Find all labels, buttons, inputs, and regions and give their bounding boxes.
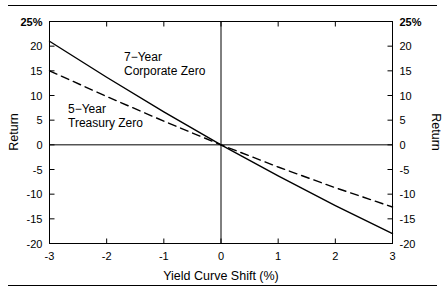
return-vs-yield-curve-shift-chart: -3-2-10123 -20-15-10-50510152025% -20-15… — [0, 0, 445, 293]
y-tick-label-left: 15 — [30, 65, 42, 77]
x-axis-tick-labels: -3-2-10123 — [45, 250, 396, 262]
treasury-zero-annotation-line1: 5−Year — [68, 102, 106, 116]
y-tick-label-left: -20 — [27, 238, 43, 250]
y-tick-label-left: -5 — [33, 164, 43, 176]
x-tick-label: -3 — [45, 250, 55, 262]
y-tick-label-left: -10 — [27, 188, 43, 200]
x-axis-ticks-top — [50, 22, 393, 27]
x-tick-label: 3 — [389, 250, 395, 262]
y-tick-label-right: -5 — [400, 164, 410, 176]
y-tick-label-left: 0 — [36, 139, 42, 151]
y-tick-label-left: -15 — [27, 213, 43, 225]
y-tick-label-right: -10 — [400, 188, 416, 200]
y-tick-label-left: 20 — [30, 40, 42, 52]
x-tick-label: -1 — [159, 250, 169, 262]
y-tick-label-left: 25% — [20, 16, 42, 28]
y-axis-tick-labels-left: -20-15-10-50510152025% — [20, 16, 42, 250]
treasury-zero-annotation-line2: Treasury Zero — [68, 116, 143, 130]
x-tick-label: 0 — [218, 250, 224, 262]
y-axis-title-right: Return — [429, 113, 443, 151]
y-tick-label-right: 25% — [400, 16, 422, 28]
y-tick-label-right: 5 — [400, 114, 406, 126]
y-tick-label-left: 5 — [36, 114, 42, 126]
y-tick-label-right: 10 — [400, 90, 412, 102]
corporate-zero-annotation-line1: 7−Year — [124, 50, 162, 64]
corporate-zero-annotation-line2: Corporate Zero — [124, 64, 206, 78]
x-axis-ticks-bottom — [50, 239, 393, 244]
y-axis-ticks-right — [388, 22, 393, 244]
y-tick-label-right: 20 — [400, 40, 412, 52]
y-tick-label-right: -20 — [400, 238, 416, 250]
y-tick-label-right: -15 — [400, 213, 416, 225]
y-axis-title-left: Return — [7, 113, 21, 151]
y-axis-ticks-left — [50, 22, 55, 244]
x-axis-title: Yield Curve Shift (%) — [163, 269, 279, 283]
x-tick-label: 2 — [332, 250, 338, 262]
y-tick-label-right: 0 — [400, 139, 406, 151]
y-axis-tick-labels-right: -20-15-10-50510152025% — [400, 16, 422, 250]
y-tick-label-right: 15 — [400, 65, 412, 77]
y-tick-label-left: 10 — [30, 90, 42, 102]
figure-container: -3-2-10123 -20-15-10-50510152025% -20-15… — [0, 0, 445, 293]
x-tick-label: 1 — [275, 250, 281, 262]
x-tick-label: -2 — [102, 250, 112, 262]
